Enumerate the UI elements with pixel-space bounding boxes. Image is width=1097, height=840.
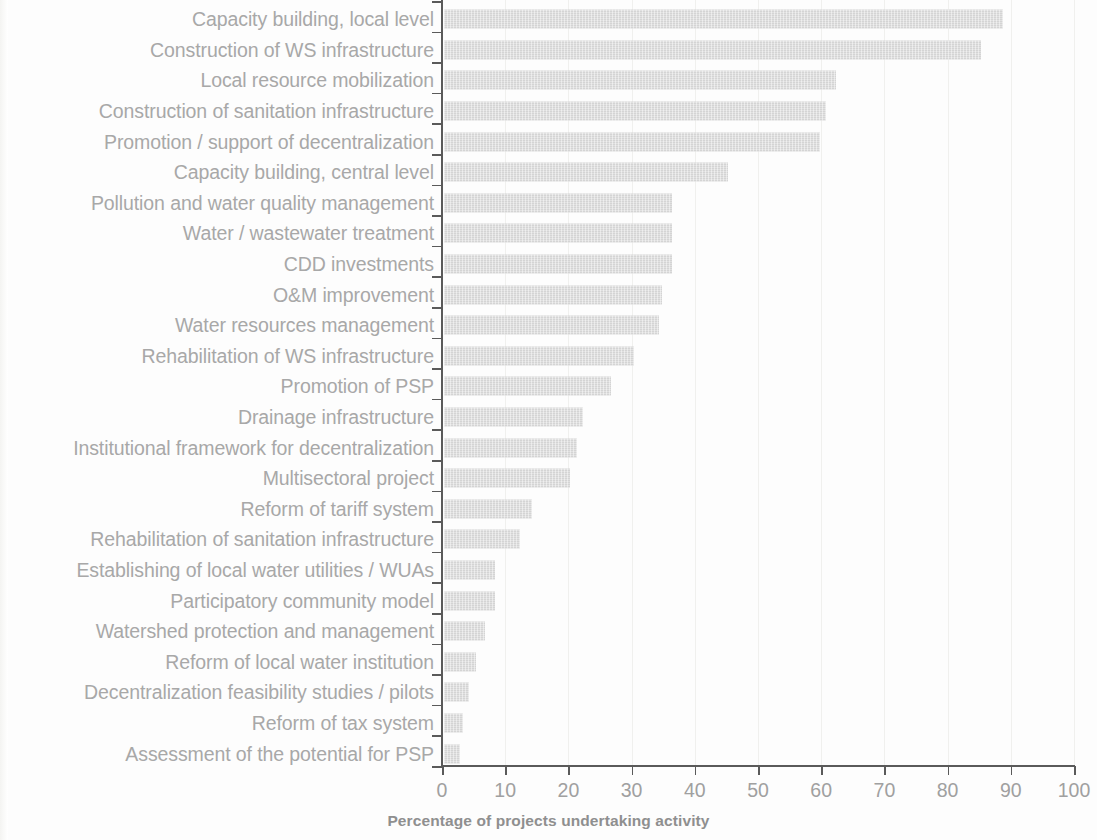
bar (444, 346, 634, 365)
chart-row: Reform of tax system (0, 708, 1097, 739)
x-tick-10 (505, 766, 507, 775)
chart-row: Construction of WS infrastructure (0, 35, 1097, 66)
x-tick-70 (884, 766, 886, 775)
bar (444, 591, 495, 610)
y-tick (432, 368, 442, 370)
y-tick (432, 766, 442, 768)
category-label: O&M improvement (273, 283, 434, 306)
chart-row: Capacity building, central level (0, 157, 1097, 188)
y-tick (432, 215, 442, 217)
chart-row: Decentralization feasibility studies / p… (0, 677, 1097, 708)
chart-rows: Capacity building, local levelConstructi… (0, 0, 1097, 765)
category-label: Water / wastewater treatment (183, 222, 434, 245)
y-tick (432, 307, 442, 309)
x-tick-label: 50 (747, 779, 769, 802)
y-tick (432, 644, 442, 646)
x-tick-label: 70 (874, 779, 896, 802)
bar (444, 714, 463, 733)
bar (444, 40, 981, 59)
category-label: Drainage infrastructure (238, 406, 434, 429)
chart-row: Reform of tariff system (0, 494, 1097, 525)
chart-row: Institutional framework for decentraliza… (0, 432, 1097, 463)
bar (444, 10, 1003, 29)
x-tick-40 (695, 766, 697, 775)
bar (444, 530, 520, 549)
x-tick-30 (632, 766, 634, 775)
bar (444, 408, 583, 427)
chart-row: Multisectoral project (0, 463, 1097, 494)
chart-row: Pollution and water quality management (0, 188, 1097, 219)
bar (444, 652, 476, 671)
y-tick (432, 582, 442, 584)
x-tick-90 (1011, 766, 1013, 775)
category-label: Assessment of the potential for PSP (125, 742, 434, 765)
y-tick (432, 32, 442, 34)
bar (444, 469, 570, 488)
category-label: Rehabilitation of WS infrastructure (142, 344, 434, 367)
y-tick (432, 460, 442, 462)
x-tick-label: 100 (1058, 779, 1091, 802)
y-tick (432, 521, 442, 523)
category-label: Decentralization feasibility studies / p… (84, 681, 434, 704)
y-tick (432, 123, 442, 125)
y-tick (432, 246, 442, 248)
y-tick (432, 735, 442, 737)
bar (444, 683, 469, 702)
category-label: Local resource mobilization (200, 69, 434, 92)
category-label: CDD investments (284, 253, 434, 276)
x-tick-label: 20 (558, 779, 580, 802)
chart-row: CDD investments (0, 249, 1097, 280)
category-label: Reform of tariff system (241, 497, 434, 520)
bar (444, 224, 672, 243)
y-tick (432, 429, 442, 431)
category-label: Participatory community model (170, 589, 434, 612)
bar (444, 561, 495, 580)
bar (444, 438, 577, 457)
category-label: Construction of WS infrastructure (150, 38, 434, 61)
x-tick-50 (758, 766, 760, 775)
y-tick (432, 93, 442, 95)
x-tick-label: 30 (621, 779, 643, 802)
y-axis-line (441, 0, 443, 766)
x-tick-100 (1074, 766, 1076, 775)
y-tick (432, 491, 442, 493)
y-tick (432, 338, 442, 340)
bar (444, 316, 659, 335)
category-label: Multisectoral project (263, 467, 434, 490)
category-label: Capacity building, central level (174, 161, 434, 184)
chart-row: Rehabilitation of WS infrastructure (0, 341, 1097, 372)
chart-row: Construction of sanitation infrastructur… (0, 96, 1097, 127)
chart-row: Water / wastewater treatment (0, 218, 1097, 249)
category-label: Watershed protection and management (96, 620, 434, 643)
x-tick-label: 10 (494, 779, 516, 802)
category-label: Construction of sanitation infrastructur… (99, 100, 434, 123)
category-label: Reform of tax system (252, 712, 434, 735)
bar (444, 377, 611, 396)
category-label: Promotion of PSP (281, 375, 434, 398)
y-tick (432, 62, 442, 64)
chart-row: O&M improvement (0, 279, 1097, 310)
x-tick-label: 90 (1000, 779, 1022, 802)
category-label: Institutional framework for decentraliza… (73, 436, 434, 459)
category-label: Establishing of local water utilities / … (76, 559, 434, 582)
bar (444, 499, 532, 518)
bar (444, 285, 662, 304)
chart-row: Reform of local water institution (0, 647, 1097, 678)
x-tick-label: 40 (684, 779, 706, 802)
chart-row: Participatory community model (0, 585, 1097, 616)
category-label: Water resources management (175, 314, 434, 337)
y-tick (432, 276, 442, 278)
bar (444, 71, 836, 90)
bar-chart: Capacity building, local levelConstructi… (0, 0, 1097, 840)
x-tick-80 (948, 766, 950, 775)
chart-row: Water resources management (0, 310, 1097, 341)
x-tick-60 (821, 766, 823, 775)
y-tick (432, 705, 442, 707)
x-tick-label: 60 (810, 779, 832, 802)
bar (444, 193, 672, 212)
y-tick (432, 154, 442, 156)
bar (444, 255, 672, 274)
x-tick-20 (568, 766, 570, 775)
category-label: Reform of local water institution (165, 650, 434, 673)
x-axis-title: Percentage of projects undertaking activ… (0, 812, 1097, 830)
